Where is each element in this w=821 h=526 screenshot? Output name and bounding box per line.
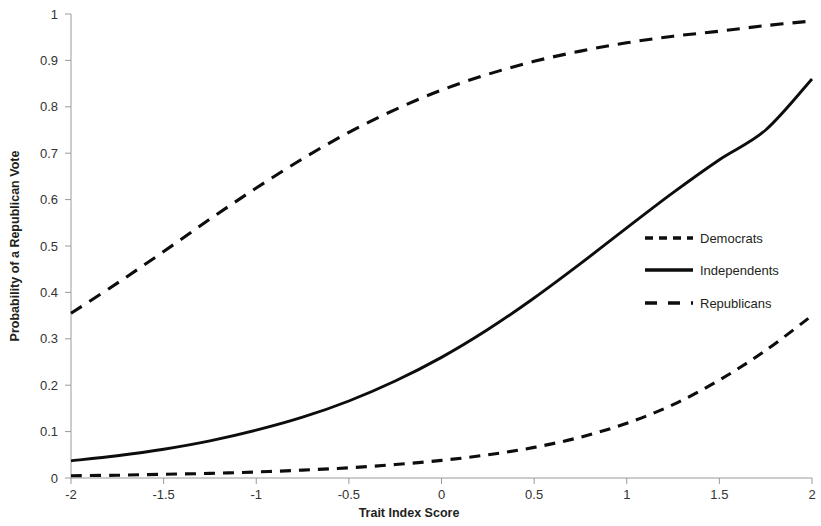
x-tick-label: -2 [65,487,77,502]
y-tick-label: 0.2 [40,378,58,393]
legend-label-democrats: Democrats [700,231,763,246]
x-tick-label: 1 [623,487,630,502]
y-tick-label: 0.3 [40,331,58,346]
chart-background [0,0,821,526]
y-axis-title: Probability of a Republican Vote [8,151,22,342]
x-tick-label: 1.5 [710,487,728,502]
probability-line-chart: 00.10.20.30.40.50.60.70.80.91 -2-1.5-1-0… [0,0,821,526]
y-tick-label: 0.5 [40,239,58,254]
y-tick-label: 0.8 [40,99,58,114]
x-tick-label: 0 [438,487,445,502]
x-axis-title: Trait Index Score [359,506,460,520]
y-tick-label: 0 [51,471,58,486]
chart-container: 00.10.20.30.40.50.60.70.80.91 -2-1.5-1-0… [0,0,821,526]
y-tick-label: 0.1 [40,424,58,439]
x-tick-label: -0.5 [338,487,360,502]
x-tick-label: -1.5 [152,487,174,502]
y-tick-label: 0.6 [40,192,58,207]
x-tick-label: 2 [808,487,815,502]
y-tick-label: 0.7 [40,146,58,161]
x-tick-label: 0.5 [525,487,543,502]
legend-label-independents: Independents [700,263,779,278]
y-tick-label: 0.9 [40,53,58,68]
legend-label-republicans: Republicans [700,296,772,311]
x-tick-label: -1 [250,487,262,502]
y-tick-label: 0.4 [40,285,58,300]
y-tick-label: 1 [51,7,58,22]
